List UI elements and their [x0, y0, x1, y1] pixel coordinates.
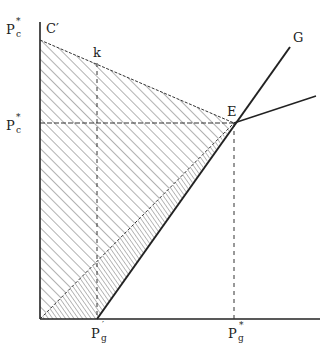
svg-text:*: * [16, 16, 21, 26]
svg-text:P: P [6, 22, 15, 37]
svg-text:P: P [6, 118, 15, 133]
label-k: k [93, 45, 101, 60]
svg-text:c: c [16, 125, 21, 135]
svg-text:c: c [16, 29, 21, 39]
label-e: E [227, 104, 237, 119]
x-label-pg-star: P g * [228, 320, 244, 343]
svg-text:*: * [239, 320, 244, 330]
svg-text:g: g [101, 333, 107, 343]
y-label-pc-star-top: P c * [6, 16, 21, 39]
svg-text:′: ′ [102, 320, 104, 330]
svg-text:*: * [16, 112, 21, 122]
y-label-pc-star-mid: P c * [6, 112, 21, 135]
svg-text:P: P [91, 326, 100, 341]
diagram-canvas: C′ k E G P c * P c * P g ′ P g * [0, 0, 335, 357]
label-g: G [293, 30, 303, 45]
svg-text:P: P [228, 326, 237, 341]
label-c-prime: C′ [46, 21, 59, 36]
svg-text:g: g [238, 333, 244, 343]
x-label-pg-prime: P g ′ [91, 320, 107, 343]
price-diagram: C′ k E G P c * P c * P g ′ P g * [0, 0, 335, 357]
